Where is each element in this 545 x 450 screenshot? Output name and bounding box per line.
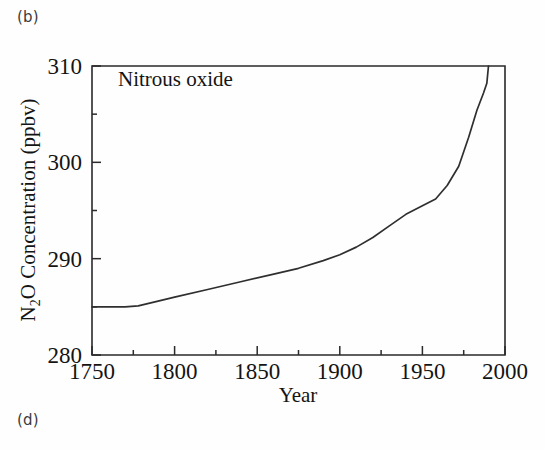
y-axis-title-group: N2O Concentration (ppbv) bbox=[16, 99, 43, 322]
x-tick-label: 1850 bbox=[234, 359, 280, 384]
nitrous-oxide-data-curve bbox=[92, 66, 488, 307]
x-tick-label: 1800 bbox=[152, 359, 198, 384]
y-axis-title-prefix: N bbox=[16, 306, 40, 321]
series-annotation-label: Nitrous oxide bbox=[118, 67, 233, 91]
x-axis-ticks bbox=[92, 346, 505, 355]
x-tick-label: 1900 bbox=[317, 359, 363, 384]
x-axis-title: Year bbox=[279, 383, 318, 407]
y-axis-ticks bbox=[92, 66, 101, 355]
axis-frame bbox=[92, 66, 505, 355]
y-axis-tick-labels: 280290300310 bbox=[48, 54, 83, 368]
y-axis-title: N2O Concentration (ppbv) bbox=[16, 99, 43, 322]
y-axis-title-main: O Concentration (ppbv) bbox=[16, 99, 40, 300]
y-tick-label: 280 bbox=[48, 343, 83, 368]
plot-frame bbox=[92, 66, 505, 355]
y-tick-label: 290 bbox=[48, 247, 83, 272]
y-tick-label: 310 bbox=[48, 54, 83, 79]
x-tick-label: 2000 bbox=[482, 359, 528, 384]
nitrous-oxide-line-chart: 175018001850190019502000 280290300310 Ni… bbox=[0, 0, 545, 450]
figure-panel-b: (b) (d) 175018001850190019502000 2802903… bbox=[0, 0, 545, 450]
y-axis-title-subscript: 2 bbox=[28, 299, 43, 306]
x-tick-label: 1950 bbox=[399, 359, 445, 384]
y-tick-label: 300 bbox=[48, 150, 83, 175]
x-axis-tick-labels: 175018001850190019502000 bbox=[69, 359, 528, 384]
